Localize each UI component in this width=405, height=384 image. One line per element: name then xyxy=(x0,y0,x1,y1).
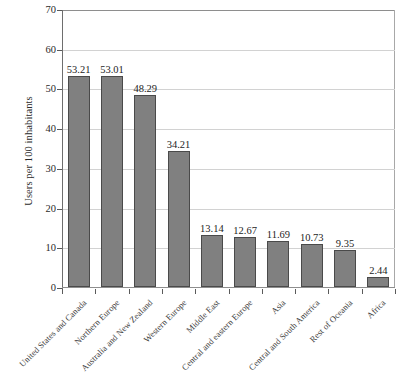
x-tick-mark xyxy=(262,289,263,294)
y-axis-line xyxy=(62,10,63,289)
bar-chart: Users per 100 inhabitants 70605040302010… xyxy=(0,0,405,384)
bar xyxy=(301,244,323,287)
bar-value-label: 53.01 xyxy=(88,64,136,75)
bar-value-label: 34.21 xyxy=(155,139,203,150)
bar-value-label: 9.35 xyxy=(321,238,369,249)
bar xyxy=(134,95,156,287)
bar-value-label: 2.44 xyxy=(354,265,402,276)
bar xyxy=(101,76,123,287)
bar xyxy=(168,151,190,287)
bar xyxy=(367,277,389,287)
x-tick-mark xyxy=(195,289,196,294)
plot-border-top xyxy=(62,10,395,11)
plot-border-right xyxy=(394,10,395,288)
bar xyxy=(201,235,223,287)
gridline xyxy=(63,50,395,51)
bar xyxy=(68,76,90,287)
x-tick-mark xyxy=(295,289,296,294)
bar xyxy=(334,250,356,287)
y-tick-label: 20 xyxy=(34,204,56,214)
x-tick-mark xyxy=(395,289,396,294)
y-tick-label: 70 xyxy=(34,5,56,15)
y-tick-label: 50 xyxy=(34,84,56,94)
y-tick-label: 0 xyxy=(34,283,56,293)
bar xyxy=(267,241,289,287)
x-tick-mark xyxy=(328,289,329,294)
y-tick-label: 10 xyxy=(34,243,56,253)
y-tick-label: 30 xyxy=(34,164,56,174)
bar xyxy=(234,237,256,287)
y-tick-label: 60 xyxy=(34,45,56,55)
x-axis-line xyxy=(62,287,395,288)
x-tick-mark xyxy=(95,289,96,294)
x-tick-mark xyxy=(62,289,63,294)
x-tick-mark xyxy=(229,289,230,294)
y-tick-label: 40 xyxy=(34,124,56,134)
x-tick-mark xyxy=(162,289,163,294)
bar-value-label: 48.29 xyxy=(121,83,169,94)
x-tick-mark xyxy=(129,289,130,294)
y-axis-tick-labels: 706050403020100 xyxy=(30,10,56,288)
x-tick-mark xyxy=(362,289,363,294)
